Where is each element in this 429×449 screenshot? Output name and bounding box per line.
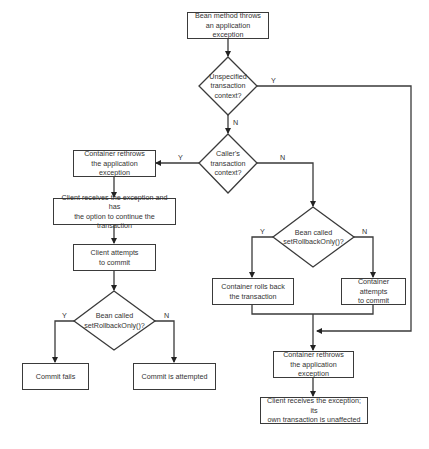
node-text: Bean called (96, 311, 134, 320)
node-text: the option to continue the transaction (74, 212, 155, 231)
node-text: Container rethrows (283, 350, 344, 359)
edge-left-rollback-no (155, 321, 174, 362)
decision-rollback-right-text: Bean calledsetRollbackOnly()? (273, 207, 354, 267)
node-text: Client receives the exception; its (267, 396, 361, 415)
node-text: own transaction is unaffected (268, 415, 361, 424)
node-text: Container rethrows (84, 149, 145, 158)
node-text: Container attempts (358, 277, 389, 296)
label-left-rollback-no: N (164, 312, 169, 320)
label-left-rollback-yes: Y (62, 312, 67, 320)
node-client-option: Client receives the exception and hasthe… (53, 198, 176, 225)
node-start: Bean method throwsan application excepti… (187, 12, 269, 39)
node-text: Client attempts (91, 248, 139, 257)
node-text: Bean method throws (195, 11, 261, 20)
node-text: an application exception (206, 21, 250, 40)
node-text: to commit (358, 296, 389, 305)
decision-rollback-left-text: Bean calledsetRollbackOnly()? (74, 291, 155, 350)
node-left-rethrow: Container rethrowsthe application except… (73, 150, 156, 177)
edge-left-rollback-yes (55, 321, 74, 362)
node-right-rethrow: Container rethrowsthe application except… (273, 351, 354, 378)
node-text: Container rolls back (221, 282, 285, 291)
label-unspecified-no: N (233, 119, 238, 127)
node-text: setRollbackOnly()? (283, 237, 344, 246)
node-text: the transaction (229, 292, 276, 301)
label-right-rollback-yes: Y (260, 228, 265, 236)
node-text: to commit (99, 258, 130, 267)
node-commit-fails: Commit fails (22, 363, 89, 390)
node-text: context? (214, 91, 241, 100)
node-text: the application exception (91, 159, 137, 178)
node-rolls-back: Container rolls backthe transaction (212, 278, 294, 305)
node-text: Commit is attempted (142, 372, 208, 382)
edge-caller-no (257, 163, 313, 206)
edge-right-rollback-yes (252, 237, 273, 277)
node-text: Client receives the exception and has (62, 193, 168, 212)
node-client-unaffected: Client receives the exception; itsown tr… (260, 397, 368, 424)
node-text: Commit fails (36, 372, 76, 382)
decision-unspecified-text: Unspecifiedtransactioncontext? (199, 57, 257, 115)
node-container-commit: Container attemptsto commit (341, 278, 406, 305)
label-right-rollback-no: N (362, 228, 367, 236)
node-text: setRollbackOnly()? (84, 321, 145, 330)
node-text: Caller's (216, 149, 240, 158)
node-text: the application exception (290, 360, 336, 379)
decision-caller-text: Caller'stransactioncontext? (199, 134, 257, 193)
node-commit-attempted: Commit is attempted (133, 363, 216, 390)
node-text: context? (214, 168, 241, 177)
node-text: transaction (210, 159, 245, 168)
label-unspecified-yes: Y (271, 77, 276, 85)
node-text: Bean called (295, 228, 333, 237)
node-client-commit: Client attemptsto commit (73, 244, 156, 271)
edge-right-rollback-no (354, 237, 373, 277)
label-caller-no: N (280, 154, 285, 162)
node-text: transaction (210, 81, 245, 90)
node-text: Unspecified (209, 72, 247, 81)
label-caller-yes: Y (178, 154, 183, 162)
